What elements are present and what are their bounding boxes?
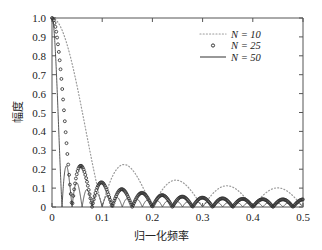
x-tick-label: 0.3 — [196, 211, 210, 223]
x-tick-label: 0.1 — [95, 211, 109, 223]
legend-label-10: N = 10 — [230, 29, 262, 40]
y-tick-label: 0 — [41, 201, 47, 213]
frequency-response-plot: 00.10.20.30.40.5 00.10.20.30.40.50.60.70… — [0, 0, 322, 250]
y-tick-label: 0.9 — [32, 31, 46, 43]
legend-label-50: N = 50 — [230, 52, 262, 63]
y-axis-tick-labels: 00.10.20.30.40.50.60.70.80.91.0 — [32, 12, 46, 213]
y-tick-label: 0.5 — [32, 107, 46, 119]
x-tick-label: 0.5 — [296, 211, 310, 223]
x-axis-title: 归一化频率 — [134, 229, 189, 243]
y-tick-label: 0.2 — [32, 163, 46, 175]
chart-figure: 00.10.20.30.40.5 00.10.20.30.40.50.60.70… — [0, 0, 322, 250]
y-tick-label: 0.8 — [32, 50, 46, 62]
y-tick-label: 0.6 — [32, 88, 46, 100]
legend-label-25: N = 25 — [230, 40, 261, 51]
x-tick-label: 0 — [49, 211, 55, 223]
y-tick-label: 0.7 — [32, 69, 46, 81]
x-tick-label: 0.4 — [246, 211, 260, 223]
y-tick-label: 0.1 — [32, 182, 46, 194]
x-tick-label: 0.2 — [146, 211, 160, 223]
y-tick-label: 1.0 — [32, 12, 46, 24]
y-axis-title: 幅度 — [11, 101, 25, 123]
y-tick-label: 0.4 — [32, 125, 46, 137]
y-tick-label: 0.3 — [32, 144, 46, 156]
